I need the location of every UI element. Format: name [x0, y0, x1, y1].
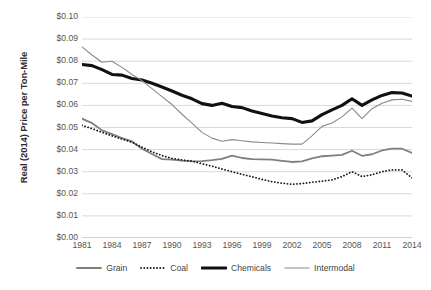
series-lines [82, 47, 412, 184]
y-tick-label: $0.10 [32, 11, 78, 21]
legend-item-chemicals[interactable]: Chemicals [201, 263, 271, 273]
gridlines [82, 17, 412, 238]
x-tick-label: 1993 [192, 240, 211, 250]
plot-svg [82, 17, 412, 238]
series-line-grain [82, 119, 412, 162]
series-line-coal [82, 125, 412, 184]
x-tick-label: 1996 [222, 240, 241, 250]
chart-legend: GrainCoalChemicalsIntermodal [0, 263, 431, 273]
x-tick-label: 2011 [373, 240, 391, 250]
x-axis-tick-labels: 1981198419871990199319961999200220052008… [0, 240, 431, 256]
x-tick-label: 2008 [342, 240, 361, 250]
y-tick-label: $0.09 [32, 33, 78, 43]
legend-item-coal[interactable]: Coal [140, 263, 188, 273]
legend-swatch-icon [140, 264, 166, 272]
legend-swatch-icon [76, 264, 102, 272]
x-tick-label: 1984 [102, 240, 121, 250]
y-tick-label: $0.05 [32, 122, 78, 132]
y-tick-label: $0.04 [32, 144, 78, 154]
x-tick-label: 2014 [402, 240, 421, 250]
x-tick-label: 1990 [162, 240, 181, 250]
y-tick-label: $0.02 [32, 188, 78, 198]
x-tick-label: 1999 [252, 240, 271, 250]
legend-swatch-icon [201, 264, 227, 272]
y-tick-label: $0.08 [32, 55, 78, 65]
legend-label: Intermodal [314, 263, 355, 273]
legend-label: Coal [170, 263, 188, 273]
y-tick-label: $0.06 [32, 99, 78, 109]
rail-price-line-chart: Real (2014) Price per Ton-Mile $0.10$0.0… [0, 0, 431, 290]
legend-swatch-icon [284, 264, 310, 272]
x-tick-label: 2005 [312, 240, 331, 250]
legend-item-grain[interactable]: Grain [76, 263, 127, 273]
legend-label: Grain [106, 263, 127, 273]
x-tick-label: 1981 [72, 240, 91, 250]
plot-area [82, 17, 412, 238]
y-tick-label: $0.01 [32, 210, 78, 220]
legend-label: Chemicals [231, 263, 271, 273]
y-tick-label: $0.07 [32, 77, 78, 87]
y-axis-title: Real (2014) Price per Ton-Mile [18, 33, 29, 203]
x-tick-label: 2002 [282, 240, 301, 250]
y-tick-label: $0.03 [32, 166, 78, 176]
legend-item-intermodal[interactable]: Intermodal [284, 263, 355, 273]
x-tick-label: 1987 [132, 240, 151, 250]
series-line-chemicals [82, 65, 412, 123]
